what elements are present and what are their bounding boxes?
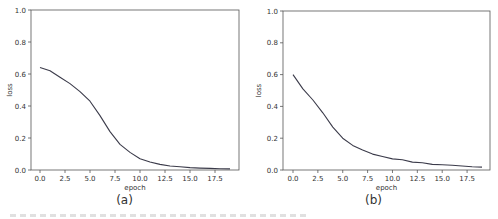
x-axis-label: epoch [124, 184, 145, 192]
y-tick-label: 0.8 [15, 39, 26, 47]
x-tick-label: 5.0 [337, 175, 348, 183]
x-tick-label: 7.5 [362, 175, 373, 183]
y-tick-label: 0.6 [15, 71, 27, 79]
chart-panel-a: 0.00.20.40.60.81.00.02.55.07.510.012.515… [0, 0, 249, 219]
x-tick-label: 12.5 [410, 175, 426, 183]
cropped-figure-caption [10, 214, 310, 217]
x-tick-label: 5.0 [84, 175, 95, 183]
loss-line [40, 68, 230, 169]
y-tick-label: 1.0 [15, 7, 26, 15]
x-tick-label: 0.0 [287, 175, 298, 183]
x-tick-label: 15.0 [434, 175, 450, 183]
loss-chart-b: 0.00.20.40.60.81.00.02.55.07.510.012.515… [249, 0, 498, 195]
x-tick-label: 10.0 [132, 175, 148, 183]
x-tick-label: 17.5 [459, 175, 475, 183]
y-tick-label: 0.6 [267, 71, 279, 79]
y-tick-label: 1.0 [267, 8, 278, 16]
x-tick-label: 2.5 [59, 175, 70, 183]
x-tick-label: 2.5 [312, 175, 323, 183]
x-tick-label: 7.5 [109, 175, 120, 183]
y-tick-label: 0.8 [267, 39, 278, 47]
x-axis-label: epoch [376, 184, 397, 192]
y-tick-label: 0.4 [15, 103, 27, 111]
subfigure-caption-b: (b) [249, 193, 498, 207]
axes-frame [31, 10, 239, 170]
y-tick-label: 0.2 [15, 135, 26, 143]
y-axis-label: loss [255, 83, 263, 97]
x-tick-label: 17.5 [207, 175, 223, 183]
x-tick-label: 10.0 [385, 175, 401, 183]
subfigure-caption-a: (a) [0, 193, 249, 207]
x-tick-label: 15.0 [182, 175, 198, 183]
y-tick-label: 0.0 [267, 167, 278, 175]
y-tick-label: 0.4 [267, 103, 279, 111]
y-tick-label: 0.2 [267, 135, 278, 143]
axes-frame [283, 11, 490, 170]
x-tick-label: 12.5 [157, 175, 173, 183]
loss-chart-a: 0.00.20.40.60.81.00.02.55.07.510.012.515… [0, 0, 249, 195]
loss-line [293, 75, 482, 168]
x-tick-label: 0.0 [34, 175, 45, 183]
y-tick-label: 0.0 [15, 167, 26, 175]
y-axis-label: loss [6, 83, 14, 97]
chart-panel-b: 0.00.20.40.60.81.00.02.55.07.510.012.515… [249, 0, 498, 219]
